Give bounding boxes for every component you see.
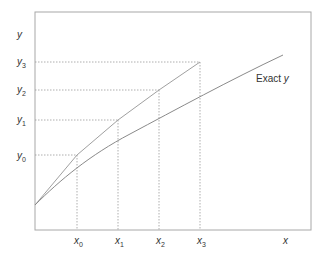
x-tick-x2: x2: [155, 235, 165, 248]
exact-curve-label: Exact y: [256, 73, 290, 84]
x-axis-label: x: [282, 235, 289, 246]
y-tick-y1: y1: [16, 114, 26, 127]
y-tick-y0: y0: [16, 150, 26, 163]
euler-approximation-line: [35, 62, 200, 205]
euler-diagram: y y0 y1 y2 y3 x0 x1 x2 x3 x Exact y: [0, 0, 326, 264]
plot-frame: [35, 12, 311, 230]
y-tick-y3: y3: [16, 56, 26, 69]
x-tick-x3: x3: [196, 235, 206, 248]
x-tick-x0: x0: [73, 235, 83, 248]
guide-lines: [35, 62, 200, 230]
x-tick-x1: x1: [114, 235, 124, 248]
y-axis-label: y: [16, 29, 23, 40]
y-tick-y2: y2: [16, 84, 26, 97]
